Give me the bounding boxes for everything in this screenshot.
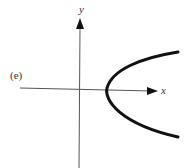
- x-axis: [20, 88, 152, 91]
- x-axis-label: x: [161, 85, 166, 96]
- graph-canvas: [0, 0, 186, 168]
- y-axis-label: y: [79, 4, 84, 15]
- part-label: (e): [10, 70, 22, 81]
- y-axis: [79, 28, 80, 168]
- parabola-curve: [107, 52, 178, 137]
- y-axis-arrow-icon: [76, 18, 84, 29]
- x-axis-arrow-icon: [147, 87, 158, 95]
